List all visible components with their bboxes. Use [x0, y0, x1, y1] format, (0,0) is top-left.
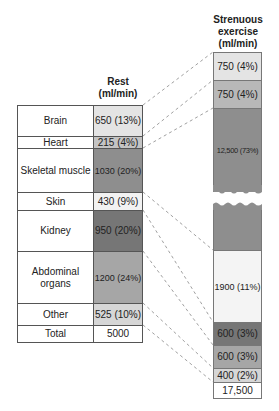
exercise-value-brain: 750 (4%) — [213, 52, 262, 81]
label-text: Heart — [43, 137, 67, 149]
value-text: 600 (3%) — [217, 328, 258, 340]
rest-value-abdominal-organs: 1200 (24%) — [93, 251, 143, 304]
exercise-value-heart: 750 (4%) — [213, 80, 262, 109]
value-text: 650 (13%) — [95, 115, 141, 127]
scale-break-icon — [212, 185, 263, 211]
value-text: 430 (9%) — [98, 196, 139, 208]
exercise-value-skeletal-muscle: 12,500 (73%) — [213, 108, 262, 192]
exercise-value-kidney: 600 (3%) — [213, 322, 262, 346]
rest-label-kidney: Kidney — [17, 210, 94, 252]
exercise-value-other: 400 (2%) — [213, 368, 262, 383]
rest-value-skin: 430 (9%) — [93, 192, 143, 211]
exercise-value-skin: 1900 (11%) — [213, 250, 262, 323]
label-text: Skeletal muscle — [20, 165, 90, 177]
rest-label-brain: Brain — [17, 105, 94, 137]
value-text: 1200 (24%) — [95, 272, 142, 284]
rest-label-skin: Skin — [17, 192, 94, 211]
value-text: 215 (4%) — [98, 137, 139, 149]
value-text: 12,500 (73%) — [217, 145, 258, 157]
label-text: Other — [43, 309, 68, 321]
value-text: 1900 (11%) — [215, 281, 261, 293]
value-text: 525 (10%) — [95, 309, 141, 321]
label-text: Total — [45, 328, 66, 340]
rest-value-brain: 650 (13%) — [93, 105, 143, 137]
value-text: 400 (2%) — [217, 370, 258, 382]
exercise-value-skeletal-muscle-lower — [213, 210, 262, 251]
value-text: 5000 — [107, 328, 129, 340]
exercise-value-abdominal-organs: 600 (3%) — [213, 345, 262, 369]
rest-label-total: Total — [17, 325, 94, 343]
value-text: 1030 (20%) — [95, 165, 142, 177]
value-text: 950 (20%) — [95, 225, 141, 237]
rest-value-other: 525 (10%) — [93, 303, 143, 326]
value-text: 600 (3%) — [217, 351, 258, 363]
rest-value-kidney: 950 (20%) — [93, 210, 143, 252]
rest-label-abdominal-organs: Abdominal organs — [17, 251, 94, 304]
rest-label-other: Other — [17, 303, 94, 326]
rest-value-skeletal-muscle: 1030 (20%) — [93, 148, 143, 193]
rest-label-skeletal-muscle: Skeletal muscle — [17, 148, 94, 193]
label-text: Skin — [46, 196, 65, 208]
value-text: 750 (4%) — [217, 89, 258, 101]
label-text: Brain — [44, 115, 67, 127]
rest-value-total: 5000 — [93, 325, 143, 343]
value-text: 17,500 — [222, 385, 253, 397]
label-text: Kidney — [40, 225, 71, 237]
exercise-value-total: 17,500 — [213, 382, 262, 399]
label-text: Abdominal organs — [28, 266, 83, 290]
value-text: 750 (4%) — [217, 61, 258, 73]
